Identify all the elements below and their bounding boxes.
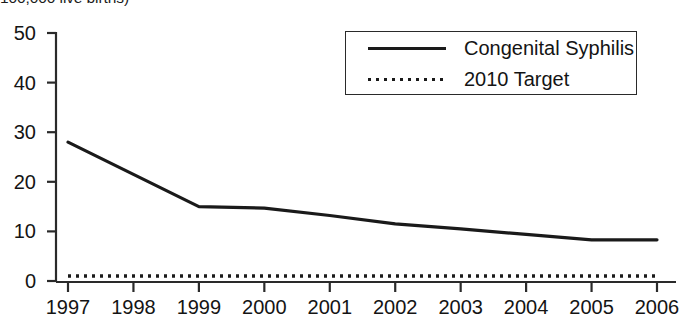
x-tick-label: 2005 [569, 297, 614, 317]
legend-label: Congenital Syphilis [464, 37, 634, 60]
x-tick-label: 1999 [177, 297, 222, 317]
legend-item-congenital-syphilis: Congenital Syphilis [346, 32, 636, 64]
dotted-line-icon [364, 78, 450, 81]
chart-figure: 100,000 live births) 01020304050 1997199… [0, 0, 682, 324]
x-tick-label: 2004 [504, 297, 549, 317]
chart-legend: Congenital Syphilis 2010 Target [345, 31, 637, 95]
x-tick-label: 1998 [111, 297, 156, 317]
legend-label: 2010 Target [464, 68, 569, 91]
x-tick-label: 2001 [308, 297, 353, 317]
x-tick-label: 2002 [373, 297, 418, 317]
x-tick-label: 2006 [635, 297, 680, 317]
legend-item-2010-target: 2010 Target [346, 63, 636, 95]
x-tick-label: 1997 [46, 297, 91, 317]
x-tick-label: 2000 [242, 297, 287, 317]
x-tick-label: 2003 [438, 297, 483, 317]
solid-line-icon [364, 47, 450, 50]
